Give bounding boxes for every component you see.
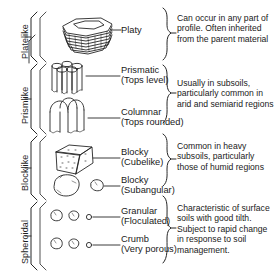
unit-sublabel-text: (Floculated) (121, 216, 170, 226)
blocky-subangular-aggregate-icon (54, 175, 103, 196)
category-label-platelike: Platelike (20, 24, 30, 59)
unit-sublabel-text: (Tops rounded) (121, 117, 184, 127)
unit-sublabel-text: (Very porous) (121, 244, 177, 254)
unit-label-text: Crumb (121, 234, 149, 244)
unit-label-granular: Granular (Floculated) (121, 206, 170, 227)
unit-label-text: Prismatic (121, 65, 159, 75)
unit-sublabel-text: (Subangular) (121, 185, 175, 195)
unit-label-text: Blocky (121, 147, 148, 157)
unit-label-platy: Platy (121, 25, 142, 35)
unit-label-text: Blocky (121, 175, 148, 185)
comment-prismlike: Usually in subsoils, particularly common… (177, 78, 274, 109)
unit-label-prismatic: Prismatic (Tops level) (121, 65, 169, 86)
comment-spheroidal: Characteristic of surface soils with goo… (177, 203, 274, 255)
crumb-aggregate-icon (51, 238, 92, 249)
soil-structure-diagram: Platelike Prismlike Blocklike Spheroidal… (0, 0, 275, 280)
blocky-cubelike-aggregate-icon (56, 145, 93, 174)
unit-sublabel-text: (Tops level) (121, 75, 169, 85)
category-rule-icon (40, 12, 46, 270)
unit-label-blocky-subangular: Blocky (Subangular) (121, 175, 175, 196)
granular-aggregate-icon (51, 210, 92, 221)
category-label-spheroidal: Spheroidal (20, 220, 30, 264)
unit-label-text: Columnar (121, 107, 161, 117)
unit-label-blocky-cubelike: Blocky (Cubelike) (121, 147, 163, 168)
comment-blocklike: Common in heavy subsoils, particularly t… (177, 141, 274, 172)
category-label-prismlike: Prismlike (20, 87, 30, 124)
columnar-aggregate-icon (50, 98, 84, 133)
unit-label-crumb: Crumb (Very porous) (121, 234, 177, 255)
unit-label-columnar: Columnar (Tops rounded) (121, 107, 184, 128)
unit-label-text: Granular (121, 206, 157, 216)
comment-platelike: Can occur in any part of profile. Often … (177, 13, 274, 44)
category-label-blocklike: Blocklike (20, 155, 30, 191)
prismatic-aggregate-icon (52, 61, 82, 94)
unit-label-text: Platy (121, 25, 142, 35)
platy-aggregate-icon (63, 18, 112, 54)
unit-sublabel-text: (Cubelike) (121, 157, 163, 167)
